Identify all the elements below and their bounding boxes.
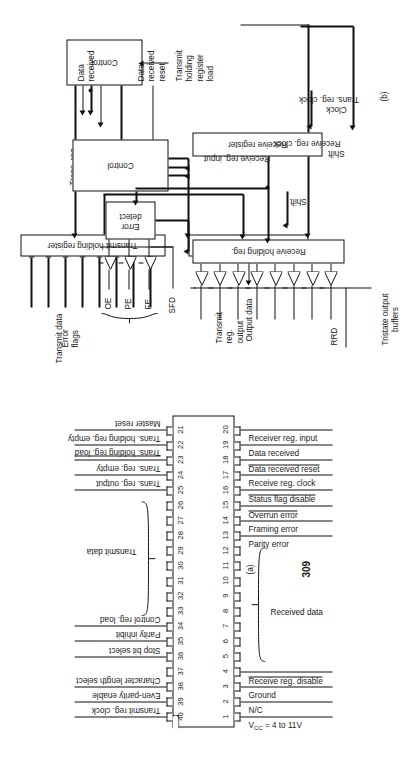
received-data-bus-label: Received data: [270, 608, 322, 617]
pin-pad-6: [234, 637, 240, 646]
figure-a-caption: (a): [246, 564, 255, 574]
transmit-data-bus-label: Transmit data: [86, 546, 136, 555]
thrl-line1: Transmit: [174, 49, 184, 81]
pin-number-7: 7: [220, 619, 229, 631]
pin-lead-18: [240, 459, 332, 460]
pin-label-4: Receive reg. disable: [248, 676, 322, 685]
pin-pad-1: [234, 713, 240, 722]
receive-holding-register-label: Receive holding reg.: [208, 244, 328, 258]
page-number: 309: [300, 560, 311, 577]
flag-pe-label: PE: [124, 298, 133, 309]
error-flag-buffer-icon: [142, 256, 160, 269]
pin-label-3: Ground: [248, 691, 275, 699]
pin-number-14: 14: [220, 514, 229, 526]
pin-number-16: 16: [220, 484, 229, 496]
pin-pad-18: [234, 456, 240, 465]
transmit-holding-register-load-label: Transmit holding register load: [174, 49, 215, 81]
pin-number-8: 8: [220, 604, 229, 616]
error-flag-output-wire: [128, 269, 129, 289]
transmit-data-line: [30, 257, 32, 307]
error-flags-label: Error flags: [60, 329, 81, 347]
buffer-input-wire: [293, 263, 294, 271]
pin-pad-5: [234, 652, 240, 661]
transmit-data-line: [81, 257, 83, 307]
data-received-line2: received: [86, 50, 96, 81]
output-data-label: Output data: [245, 298, 254, 341]
error-detect-line1: Error: [121, 220, 139, 230]
pin-label-15: Overrun error: [248, 510, 297, 519]
pin-pad-8: [234, 607, 240, 616]
pin-pad-17: [234, 471, 240, 480]
pin-lead-14: [240, 520, 332, 521]
pin-number-17: 17: [220, 468, 229, 480]
buffer-output-wire: [293, 285, 294, 319]
data-received-reset-label: Data received reset: [136, 50, 167, 81]
buffer-input-wire: [311, 263, 312, 271]
pin-number-9: 9: [220, 589, 229, 601]
thrl-line3: register: [195, 49, 205, 81]
pin-lead-1: [240, 716, 332, 717]
tristate-buffer-icon: [268, 271, 286, 285]
pin-pad-11: [234, 562, 240, 571]
tristate-buffer-icon: [249, 271, 267, 285]
tristate-output-buffers-label: Tristate output buffers: [378, 265, 402, 373]
pin-label-14: Framing error: [248, 525, 298, 533]
pin-number-15: 15: [220, 499, 229, 511]
pin-pad-13: [234, 531, 240, 540]
pin-label-2: N/C: [248, 706, 262, 714]
drr-line1: Data: [136, 50, 146, 81]
receive-reg-input-label: Receive reg. input: [182, 152, 292, 165]
error-flags-brace-shape: [100, 311, 158, 323]
buffer-input-wire: [237, 263, 238, 271]
buffer-output-wire: [237, 285, 238, 319]
data-received-label: Data received: [76, 50, 97, 81]
rrd-label: RRD: [330, 327, 339, 345]
pin-lead-13: [240, 535, 332, 536]
tristate-buffer-icon: [323, 271, 341, 285]
pin-label-20: Receiver reg. input: [248, 434, 317, 442]
tristate-buffer-icon: [194, 271, 212, 285]
pin-pad-2: [234, 697, 240, 706]
pin-pad-15: [234, 501, 240, 510]
received-data-brace-shape: [251, 545, 265, 663]
pin-number-10: 10: [220, 574, 229, 586]
thrl-line4: load: [205, 49, 215, 81]
drr-line3: reset: [157, 50, 167, 81]
buffer-output-wire: [274, 285, 275, 319]
pin-label-18: Data received reset: [248, 464, 319, 473]
figure-page: 40Transmit reg. clock39Even-parity enabl…: [0, 0, 409, 763]
pin-pad-4: [234, 667, 240, 676]
pin-lead-16: [240, 490, 332, 491]
receive-clock-label: Clock: [316, 103, 356, 115]
pin-label-16: Status flag disable: [248, 495, 315, 504]
error-flag-output-wire: [108, 269, 109, 289]
error-flag-buffer-icon: [102, 256, 120, 269]
pin-label-17: Receive reg. clock: [248, 479, 315, 487]
receive-control-label: Control: [95, 158, 145, 172]
error-detect-line2: detect: [119, 210, 141, 220]
buffer-output-wire: [330, 285, 331, 319]
pin-lead-20: [240, 429, 332, 430]
tx-out-line2: reg.: [224, 311, 234, 343]
transmit-data-line: [64, 257, 66, 307]
pin-number-3: 3: [220, 680, 229, 692]
pin-pad-16: [234, 486, 240, 495]
buffer-output-wire: [219, 285, 220, 319]
pin-number-5: 5: [220, 650, 229, 662]
pin-number-2: 2: [220, 695, 229, 707]
transmit-data-brace-shape: [141, 500, 155, 618]
buffer-output-wire: [256, 285, 257, 319]
pin-lead-19: [240, 444, 332, 445]
thrl-line2: holding: [184, 49, 194, 81]
error-detect-label: Error detect: [102, 208, 158, 232]
buffer-input-wire: [330, 263, 331, 271]
pin-lead-4: [240, 671, 332, 672]
pin-number-12: 12: [220, 544, 229, 556]
error-flag-input-wire: [108, 239, 109, 256]
pin-lead-17: [240, 474, 332, 475]
buffer-input-wire: [219, 263, 220, 271]
transmit-data-line: [98, 257, 100, 307]
pin-number-1: 1: [220, 710, 229, 722]
transmit-shift-label: Shift: [278, 195, 318, 207]
tristate-buffer-icon: [212, 271, 230, 285]
